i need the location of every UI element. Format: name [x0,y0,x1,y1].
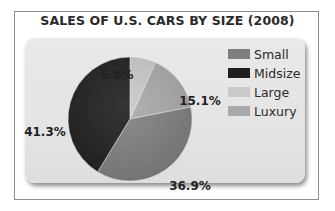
legend-label-luxury: Luxury [254,104,297,119]
legend-swatch-large [228,87,250,97]
legend-swatch-luxury [228,106,250,116]
legend-swatch-midsize [228,68,250,78]
pie-chart: 6.8%15.1%36.9%41.3% SmallMidsizeLargeLux… [0,0,335,211]
legend: SmallMidsizeLargeLuxury [228,47,301,119]
data-label-small: 36.9% [169,179,211,193]
legend-label-large: Large [254,85,289,100]
legend-label-midsize: Midsize [254,66,301,81]
data-label-large: 6.8% [100,68,133,82]
data-label-midsize: 41.3% [24,125,66,139]
data-label-luxury: 15.1% [179,94,221,108]
legend-label-small: Small [254,47,289,62]
legend-swatch-small [228,49,250,59]
